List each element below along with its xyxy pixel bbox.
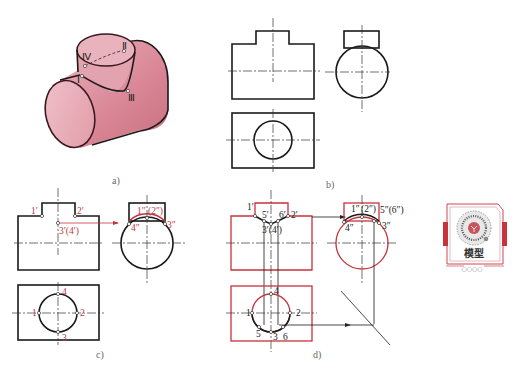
- caption-c: c): [96, 349, 104, 361]
- caption-b: b): [326, 179, 334, 191]
- panel-a-isometric: Ⅳ Ⅰ Ⅱ Ⅲ: [38, 34, 168, 153]
- label-3dbl-d: 3″: [382, 221, 391, 231]
- label-2-d: 2: [296, 308, 301, 318]
- qr-card[interactable]: 模型 ○○○○: [443, 204, 507, 272]
- label-2prime-c: 2′: [77, 206, 84, 216]
- panel-b-views: [226, 18, 390, 172]
- label-1dbl-d: 1″: [351, 204, 360, 214]
- label-1dbl-c: 1″: [137, 206, 146, 216]
- label-4dbl-c: 4″: [131, 223, 140, 233]
- qr-card-title: 模型: [464, 247, 484, 259]
- label-3prime-c: 3′(4′): [59, 226, 79, 237]
- svg-text:Ⅲ: Ⅲ: [128, 93, 135, 103]
- label-2dbl-c: (2″): [148, 206, 163, 217]
- label-4-d: 4: [274, 286, 279, 296]
- label-2dbl-d: (2″): [361, 204, 376, 215]
- point-I: [80, 74, 83, 77]
- caption-a: a): [112, 175, 120, 187]
- label-2prime-d: 2′: [291, 210, 298, 220]
- svg-text:Ⅱ: Ⅱ: [122, 41, 127, 51]
- label-1-d: 1: [246, 308, 251, 318]
- label-3dbl-c: 3″: [167, 220, 176, 230]
- qr-card-dots: ○○○○: [462, 265, 483, 272]
- label-3-c: 3: [62, 333, 67, 343]
- label-6-d: 6: [283, 332, 288, 342]
- label-2-c: 2: [80, 308, 85, 318]
- label-5-d: 5: [256, 329, 261, 339]
- label-1-c: 1: [32, 308, 37, 318]
- label-3-d: 3: [273, 332, 278, 342]
- label-4-c: 4: [62, 287, 67, 297]
- label-1prime-d: 1′: [247, 202, 254, 212]
- label-5prime-d: 5′: [262, 210, 269, 220]
- svg-text:Ⅰ: Ⅰ: [77, 75, 80, 85]
- figure-canvas: Ⅳ Ⅰ Ⅱ Ⅲ a) b) 1′ 2′ 3′(4′): [0, 0, 519, 371]
- label-4dbl-d: 4″: [345, 223, 354, 233]
- label-1prime-c: 1′: [31, 206, 38, 216]
- label-6prime-d: 6′: [279, 210, 286, 220]
- panel-d-views: 1′ 5′ 6′ 2′ 3′(4′) 1″ (2″) 5″(6″) 4″ 3″ …: [226, 190, 404, 352]
- point-IV: [83, 64, 86, 67]
- label-3prime-d: 3′(4′): [262, 225, 282, 236]
- caption-d: d): [313, 349, 321, 361]
- panel-c-views: 1′ 2′ 3′(4′) 1″ (2″) 4″ 3″ 1 2 3 4: [12, 188, 185, 345]
- svg-text:Ⅳ: Ⅳ: [82, 52, 92, 62]
- label-56dbl-d: 5″(6″): [380, 205, 404, 216]
